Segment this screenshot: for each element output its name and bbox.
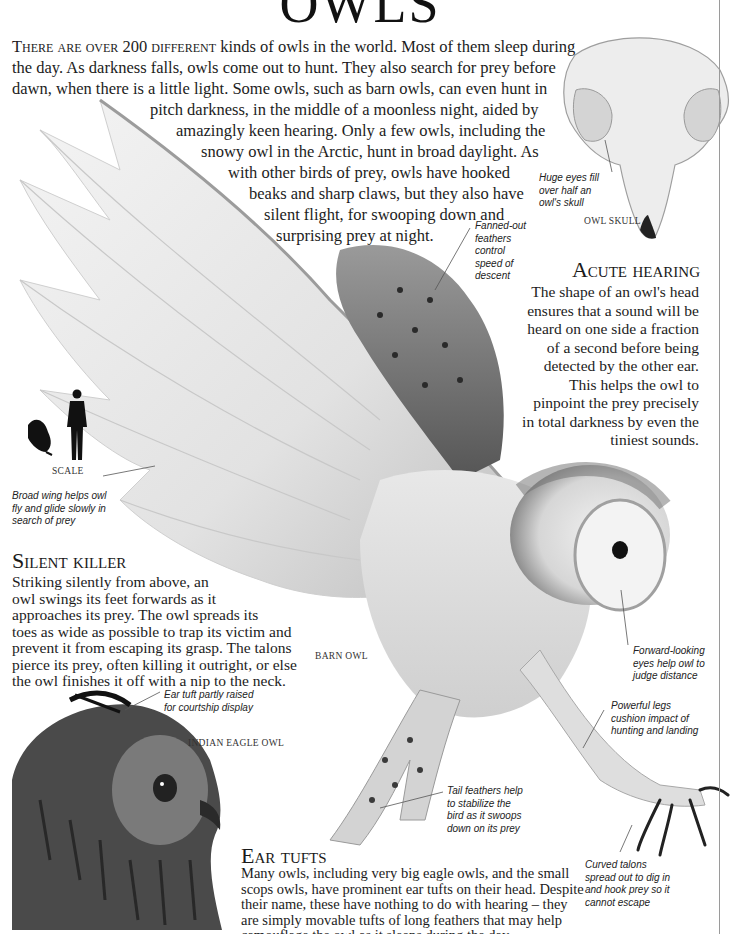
indian-eagle-owl-label: INDIAN EAGLE OWL <box>188 738 284 748</box>
tail-feathers-caption: Tail feathers help to stabilize the bird… <box>447 785 523 835</box>
intro-line-2: the day. As darkness falls, owls come ou… <box>12 57 556 78</box>
barn-owl-label: BARN OWL <box>315 651 368 661</box>
ear-tuft-caption: Ear tuft partly raised for courtship dis… <box>164 689 253 714</box>
intro-line-10: surprising prey at night. <box>276 225 434 246</box>
skull-caption: Huge eyes fill over half an owl's skull <box>539 172 599 210</box>
broad-wing-caption: Broad wing helps owl fly and glide slowl… <box>12 490 107 528</box>
intro-line-7: with other birds of prey, owls have hook… <box>228 162 510 183</box>
curved-talons-caption: Curved talons spread out to dig in and h… <box>585 859 670 909</box>
intro-line-1: There are over 200 different kinds of ow… <box>12 36 575 57</box>
owl-skull-label: OWL SKULL <box>584 216 641 226</box>
ear-tufts-text: Many owls, including very big eagle owls… <box>241 864 581 934</box>
intro-paragraph: There are over 200 different kinds of ow… <box>0 0 720 240</box>
intro-line-8: beaks and sharp claws, but they also hav… <box>249 183 524 204</box>
silent-killer-text: Striking silently from above, an owl swi… <box>12 573 372 708</box>
intro-line-6: snowy owl in the Arctic, hunt in broad d… <box>201 141 539 162</box>
fanned-feathers-caption: Fanned-out feathers control speed of des… <box>475 220 526 283</box>
intro-line-3: dawn, when there is a little light. Some… <box>12 78 547 99</box>
powerful-legs-caption: Powerful legs cushion impact of hunting … <box>611 700 698 738</box>
intro-line-4: pitch darkness, in the middle of a moonl… <box>150 99 539 120</box>
intro-line-5: amazingly keen hearing. Only a few owls,… <box>176 120 545 141</box>
forward-eyes-caption: Forward-looking eyes help owl to judge d… <box>633 645 705 683</box>
scale-label: SCALE <box>52 466 84 476</box>
acute-hearing-text: The shape of an owl's head ensures that … <box>500 283 699 463</box>
silent-killer-heading: Silent killer <box>12 549 126 573</box>
intro-lead-smallcaps: There are over 200 different <box>12 37 216 56</box>
intro-line-9: silent flight, for swooping down and <box>264 204 504 225</box>
acute-hearing-heading: Acute hearing <box>572 258 700 282</box>
